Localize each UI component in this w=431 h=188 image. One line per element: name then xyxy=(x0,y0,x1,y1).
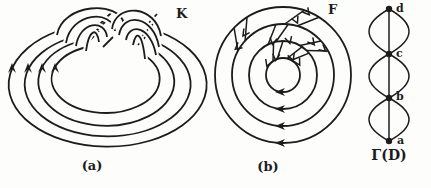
vertex-label-b: b xyxy=(396,91,404,102)
seifert-diagram-svg xyxy=(212,0,362,160)
knot-orientation-arrows xyxy=(8,63,59,73)
panel-b-caption: (b) xyxy=(248,160,288,173)
panel-a-caption: (a) xyxy=(72,159,112,172)
graph-label: Γ(D) xyxy=(358,148,420,162)
knot-crossing-hump-left xyxy=(57,8,124,51)
surface-label: F xyxy=(328,3,337,16)
knot-diagram-svg xyxy=(0,0,215,158)
seifert-circles xyxy=(215,7,351,143)
knot-crossing-hump-right xyxy=(112,11,161,59)
vertex-label-d: d xyxy=(396,3,404,14)
seifert-bands xyxy=(234,10,328,61)
vertex-label-a: a xyxy=(397,135,404,146)
vertex-label-c: c xyxy=(396,48,403,59)
seifert-orientation-arrows xyxy=(275,88,285,147)
figure-canvas: K F d c b a (a) (b) Γ(D) xyxy=(0,0,431,188)
knot-concentric-strands xyxy=(9,31,207,147)
graph-svg xyxy=(358,0,430,170)
knot-label: K xyxy=(176,7,187,20)
